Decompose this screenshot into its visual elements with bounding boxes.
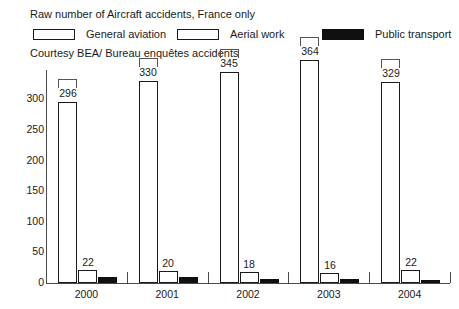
bar [78, 270, 97, 283]
y-tick-label: 250 [4, 124, 44, 135]
x-tick-label: 2003 [299, 288, 359, 300]
y-tick-label: 200 [4, 155, 44, 166]
y-tick: 200 [0, 155, 44, 166]
chart-figure: Raw number of Aircraft accidents, France… [0, 0, 459, 309]
bar-value-label: 16 [300, 259, 360, 271]
y-axis-line [46, 70, 47, 284]
x-axis-line [46, 283, 450, 284]
bar [340, 279, 359, 283]
bar [300, 60, 319, 283]
bar [98, 277, 117, 283]
y-tick-label: 100 [4, 216, 44, 227]
bar-value-label: 22 [58, 256, 118, 268]
plot-area: 050100150200250300 20002001200220032004 … [0, 0, 459, 309]
y-tick: 150 [0, 185, 44, 196]
y-tick: 0 [0, 277, 44, 288]
bar [381, 82, 400, 283]
bar [139, 81, 158, 283]
x-axis-separator-tick [369, 272, 370, 283]
bar [401, 270, 420, 283]
x-axis-separator-tick [46, 272, 47, 283]
x-tick-label: 2000 [56, 288, 116, 300]
x-tick-label: 2004 [380, 288, 440, 300]
bar [421, 280, 440, 283]
y-tick: 100 [0, 216, 44, 227]
bar-value-label: 345 [199, 57, 259, 69]
y-tick: 50 [0, 246, 44, 257]
x-tick-label: 2002 [218, 288, 278, 300]
bar-value-label: 330 [118, 66, 178, 78]
bar [159, 271, 178, 283]
bar-value-label: 296 [38, 87, 98, 99]
x-axis-separator-tick [288, 272, 289, 283]
bar [320, 273, 339, 283]
y-tick-label: 150 [4, 185, 44, 196]
bar-value-label: 20 [138, 257, 198, 269]
y-tick-label: 0 [4, 277, 44, 288]
x-tick-label: 2001 [137, 288, 197, 300]
bar-value-label: 364 [280, 45, 340, 57]
bar [179, 277, 198, 283]
bar-value-label: 22 [381, 256, 441, 268]
y-tick: 250 [0, 124, 44, 135]
bar [240, 272, 259, 283]
x-axis-separator-tick [127, 272, 128, 283]
x-axis-separator-tick [450, 272, 451, 283]
bar [220, 72, 239, 283]
y-tick-label: 50 [4, 246, 44, 257]
x-axis-separator-tick [208, 272, 209, 283]
bar-value-label: 18 [219, 258, 279, 270]
bar-value-label: 329 [361, 67, 421, 79]
bar [260, 279, 279, 283]
